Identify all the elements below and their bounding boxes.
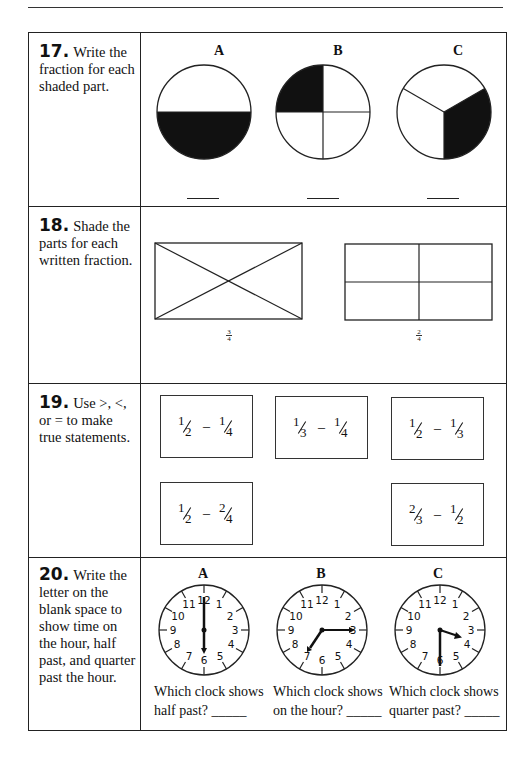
answer-blank-b[interactable] bbox=[307, 198, 339, 199]
question-on-the-hour: Which clock shows on the hour? _____ bbox=[273, 682, 385, 720]
fraction: 12 bbox=[449, 502, 467, 528]
circle-a bbox=[157, 65, 251, 159]
answer-blank[interactable]: _____ bbox=[212, 703, 247, 718]
worksheet-table: 17.Write the fraction for each shaded pa… bbox=[28, 32, 507, 731]
fraction: 13 bbox=[449, 416, 467, 442]
comparison-blank: – bbox=[318, 420, 325, 436]
comparison-blank: – bbox=[203, 506, 210, 522]
page-header-rule bbox=[28, 7, 503, 8]
fraction-circles bbox=[29, 33, 508, 206]
answer-blank-c[interactable] bbox=[427, 198, 459, 199]
comparison-box[interactable]: 12 – 14 bbox=[160, 395, 253, 458]
fraction-three-fourths: 34 bbox=[224, 329, 234, 342]
answer-blank[interactable]: _____ bbox=[346, 703, 381, 718]
comparison-box[interactable]: 23 – 12 bbox=[391, 483, 484, 546]
clock-c bbox=[395, 585, 485, 675]
comparison-blank: – bbox=[203, 419, 210, 435]
row-divider bbox=[29, 383, 506, 384]
comparison-blank: – bbox=[434, 421, 441, 437]
rectangle-diagonals[interactable] bbox=[155, 243, 302, 319]
fraction: 14 bbox=[333, 415, 351, 441]
circle-c bbox=[397, 65, 491, 159]
comparison-box[interactable]: 13 – 14 bbox=[275, 396, 368, 459]
circle-b bbox=[276, 65, 370, 159]
fraction: 23 bbox=[408, 502, 426, 528]
question-half-past: Which clock shows half past? _____ bbox=[154, 682, 266, 720]
shading-rectangles bbox=[29, 206, 508, 383]
comparison-blank: – bbox=[434, 507, 441, 523]
comparison-box[interactable]: 12 – 24 bbox=[160, 482, 253, 545]
clock-a bbox=[159, 585, 249, 675]
rectangle-grid[interactable] bbox=[345, 244, 492, 320]
fraction-two-fourths: 24 bbox=[414, 329, 424, 342]
problem-19-prompt: 19.Use >, <, or = to make true statement… bbox=[39, 394, 137, 446]
fraction: 12 bbox=[408, 416, 426, 442]
answer-blank-a[interactable] bbox=[187, 198, 219, 199]
clock-b bbox=[277, 585, 367, 675]
answer-blank[interactable]: _____ bbox=[464, 703, 499, 718]
comparison-box[interactable]: 12 – 13 bbox=[391, 397, 484, 460]
fraction: 24 bbox=[218, 501, 236, 527]
problem-number: 19. bbox=[39, 392, 69, 412]
fraction: 14 bbox=[218, 414, 236, 440]
fraction: 13 bbox=[292, 415, 310, 441]
question-quarter-past: Which clock shows quarter past? _____ bbox=[389, 682, 501, 720]
fraction: 12 bbox=[177, 501, 195, 527]
fraction: 12 bbox=[177, 414, 195, 440]
